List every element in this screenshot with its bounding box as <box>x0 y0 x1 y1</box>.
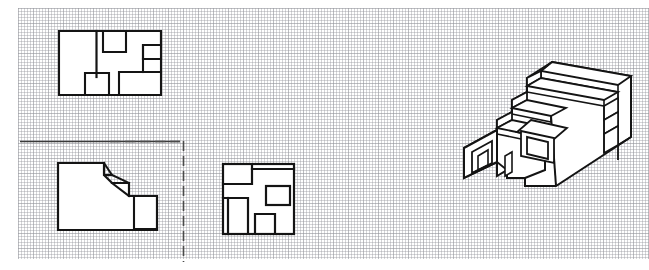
ground-plan-diagonal-upper <box>112 175 129 183</box>
roof-plan <box>223 164 294 234</box>
ground-floor-plan <box>58 163 157 230</box>
ground-plan-chamfer <box>104 163 112 175</box>
drawing-sheet <box>0 0 649 270</box>
vector-drawing-layer <box>0 0 649 270</box>
ground-plan-outline <box>58 163 157 230</box>
axon-tunnel-pilaster <box>505 152 512 176</box>
upper-floor-plan <box>59 31 161 95</box>
axonometric-view <box>464 62 631 186</box>
